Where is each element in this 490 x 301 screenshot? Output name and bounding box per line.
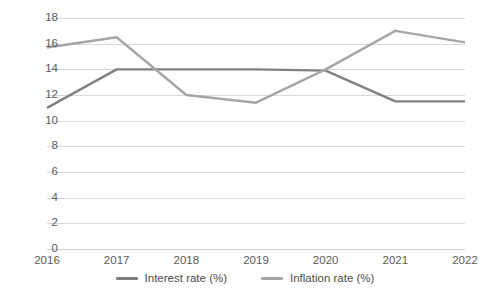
y-axis-tick-label: 2 bbox=[18, 217, 58, 229]
x-axis-tick-label: 2020 bbox=[296, 253, 356, 267]
legend-swatch-icon bbox=[116, 277, 138, 280]
x-axis-tick-label: 2022 bbox=[435, 253, 490, 267]
legend-item[interactable]: Interest rate (%) bbox=[116, 272, 227, 285]
plot-area bbox=[47, 18, 465, 249]
x-axis-tick-label: 2016 bbox=[17, 253, 77, 267]
series-line bbox=[47, 31, 465, 103]
y-axis-tick-label: 10 bbox=[18, 115, 58, 127]
x-axis-tick-label: 2018 bbox=[156, 253, 216, 267]
line-chart: 024681012141618 201620172018201920202021… bbox=[0, 0, 490, 301]
y-axis-tick-label: 14 bbox=[18, 63, 58, 75]
y-axis-tick-label: 8 bbox=[18, 140, 58, 152]
y-axis-tick-label: 4 bbox=[18, 192, 58, 204]
y-axis-tick-label: 12 bbox=[18, 89, 58, 101]
legend-item[interactable]: Inflation rate (%) bbox=[261, 272, 374, 285]
legend-swatch-icon bbox=[261, 277, 283, 280]
legend-label: Interest rate (%) bbox=[145, 272, 227, 285]
y-axis-tick-label: 16 bbox=[18, 38, 58, 50]
x-axis: 2016201720182019202020212022 bbox=[47, 253, 465, 271]
y-axis-tick-label: 6 bbox=[18, 166, 58, 178]
gridline bbox=[47, 249, 465, 250]
y-axis-tick-label: 18 bbox=[18, 12, 58, 24]
chart-legend: Interest rate (%)Inflation rate (%) bbox=[0, 272, 490, 285]
x-axis-tick-label: 2021 bbox=[365, 253, 425, 267]
x-axis-tick-label: 2017 bbox=[87, 253, 147, 267]
series-lines bbox=[47, 18, 465, 249]
x-axis-tick-label: 2019 bbox=[226, 253, 286, 267]
legend-label: Inflation rate (%) bbox=[290, 272, 374, 285]
